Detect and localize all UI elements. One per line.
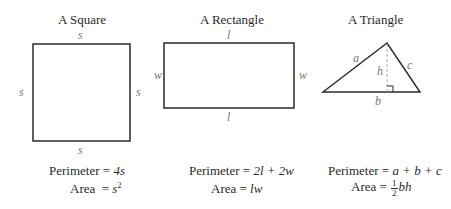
right-angle-marker: [387, 86, 393, 92]
triangle-title: A Triangle: [348, 12, 403, 28]
rectangle-top-label: l: [227, 28, 230, 43]
square-title: A Square: [58, 12, 106, 28]
rectangle-bottom-label: l: [227, 110, 230, 125]
square-area-exp: 2: [117, 181, 121, 190]
square-perimeter-expr: 4s: [113, 163, 125, 178]
square-top-label: s: [78, 28, 83, 43]
square-bottom-label: s: [78, 143, 83, 158]
triangle-perimeter: Perimeter = a + b + c: [328, 163, 442, 179]
triangle-area-label: Area =: [351, 179, 390, 194]
triangle-area-expr: bh: [399, 179, 412, 194]
rectangle-area-expr: lw: [250, 181, 262, 196]
rectangle-area: Area = lw: [211, 181, 262, 197]
square-area: Area = s2: [70, 181, 121, 197]
triangle-base-label: b: [375, 94, 381, 109]
rectangle-right-label: w: [299, 68, 307, 83]
triangle-side-a-label: a: [353, 51, 359, 66]
triangle-perimeter-expr: a + b + c: [392, 163, 441, 178]
rectangle-title: A Rectangle: [200, 12, 264, 28]
triangle-perimeter-label: Perimeter =: [328, 163, 392, 178]
square-perimeter-label: Perimeter =: [49, 163, 113, 178]
triangle-shape: [323, 43, 420, 92]
triangle-area: Area = 12bh: [351, 179, 412, 198]
rectangle-perimeter-label: Perimeter =: [189, 163, 253, 178]
square-shape: [33, 44, 130, 141]
rectangle-area-label: Area =: [211, 181, 250, 196]
rectangle-perimeter: Perimeter = 2l + 2w: [189, 163, 294, 179]
rectangle-shape: [164, 43, 294, 108]
triangle-area-fraction: 12: [391, 179, 398, 198]
triangle-side-c-label: c: [407, 58, 412, 73]
square-right-label: s: [136, 85, 141, 100]
square-perimeter: Perimeter = 4s: [49, 163, 125, 179]
rectangle-left-label: w: [154, 68, 162, 83]
square-left-label: s: [19, 85, 24, 100]
fraction-denominator: 2: [391, 189, 398, 198]
triangle-height-label: h: [377, 64, 383, 79]
square-area-label: Area =: [70, 181, 112, 196]
rectangle-perimeter-expr: 2l + 2w: [253, 163, 294, 178]
